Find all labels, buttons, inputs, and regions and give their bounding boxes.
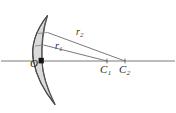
optics-figure: O C1 C2 r1 r2 xyxy=(0,0,176,113)
figure-canvas xyxy=(0,0,176,113)
label-radius-r1: r1 xyxy=(55,41,62,52)
label-center-c1: C1 xyxy=(100,64,111,77)
label-vertex-O: O xyxy=(30,58,38,69)
label-center-c2-subscript: 2 xyxy=(126,69,130,76)
vertex-marker-dot xyxy=(39,58,44,64)
label-center-c2: C2 xyxy=(119,64,130,77)
label-radius-r2-subscript: 2 xyxy=(80,31,83,38)
label-radius-r1-subscript: 1 xyxy=(59,45,62,52)
label-center-c1-subscript: 1 xyxy=(107,69,111,76)
label-radius-r2: r2 xyxy=(76,27,83,38)
